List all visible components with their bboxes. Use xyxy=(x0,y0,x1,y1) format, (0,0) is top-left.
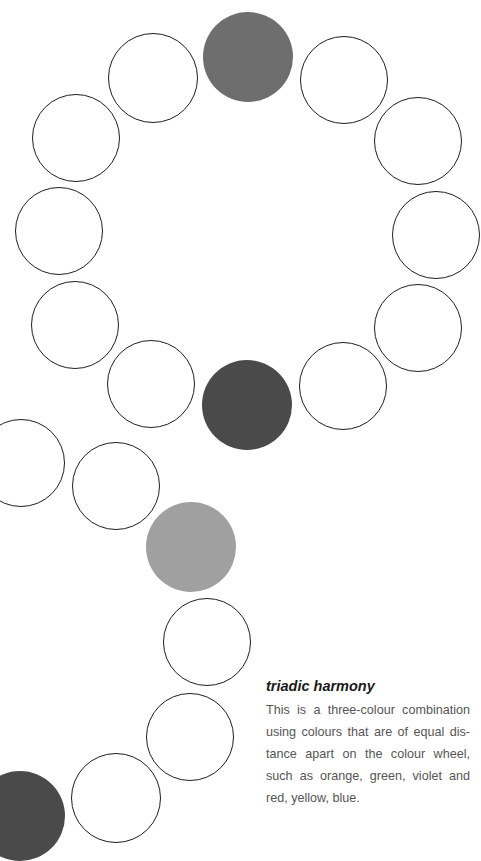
outline-circle xyxy=(107,340,195,428)
outline-circle xyxy=(163,598,251,686)
outline-circle xyxy=(374,97,462,185)
caption-title: triadic harmony xyxy=(266,676,470,696)
outline-circle xyxy=(299,342,387,430)
outline-circle xyxy=(392,191,480,279)
outline-circle xyxy=(0,419,65,507)
outline-circle xyxy=(374,284,462,372)
outline-circle xyxy=(31,281,119,369)
caption-body: This is a three-colour combination using… xyxy=(266,699,470,809)
outline-circle xyxy=(108,33,198,123)
filled-colour-circle xyxy=(146,502,236,592)
outline-circle xyxy=(146,693,234,781)
outline-circle xyxy=(72,442,160,530)
outline-circle xyxy=(32,94,120,182)
filled-colour-circle xyxy=(202,360,292,450)
outline-circle xyxy=(71,753,161,843)
filled-colour-circle xyxy=(203,12,293,102)
outline-circle xyxy=(300,36,388,124)
caption-block: triadic harmony This is a three-colour c… xyxy=(266,676,470,809)
outline-circle xyxy=(15,187,103,275)
filled-colour-circle xyxy=(0,771,65,861)
